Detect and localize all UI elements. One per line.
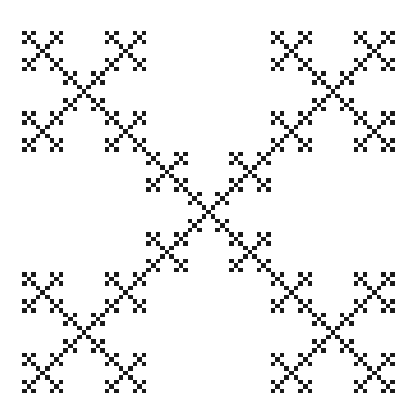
vicsek-fractal-image — [22, 31, 395, 393]
